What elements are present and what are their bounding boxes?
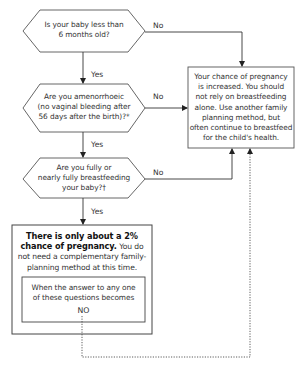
question-3-no-label: No	[153, 168, 163, 177]
no-connector-1	[145, 32, 242, 66]
question-1-no-label: No	[153, 21, 163, 30]
question-2-line-2: (no vaginal bleeding after	[34, 102, 134, 112]
question-2-line-1: Are you amenorrhoeic	[34, 92, 134, 102]
question-2-text: Are you amenorrhoeic (no vaginal bleedin…	[34, 92, 134, 123]
question-3-line-1: Are you fully or	[34, 163, 134, 173]
increased-line-4: alone. Use another family	[188, 103, 294, 113]
increased-chance-text: Your chance of pregnancy is increased. Y…	[188, 72, 294, 143]
increased-line-2: is increased. You should	[188, 82, 294, 92]
low-chance-line-4: planning method at this time.	[12, 263, 152, 273]
question-1-text: Is your baby less than 6 months old?	[40, 20, 128, 40]
low-chance-text: There is only about a 2% chance of pregn…	[12, 231, 152, 273]
question-1-yes-label: Yes	[91, 70, 103, 79]
question-2-no-label: No	[153, 92, 163, 101]
question-1-line-1: Is your baby less than	[40, 20, 128, 30]
condition-line-1: When the answer to any one	[22, 283, 145, 293]
low-chance-line-3: not need a complementary family-	[12, 252, 152, 262]
increased-line-1: Your chance of pregnancy	[188, 72, 294, 82]
condition-text: When the answer to any one of these ques…	[22, 283, 145, 317]
question-3-line-2: nearly fully breastfeeding	[34, 173, 134, 183]
question-2-yes-label: Yes	[91, 140, 103, 149]
question-1-line-2: 6 months old?	[40, 30, 128, 40]
low-chance-rest-line-2: You do	[117, 242, 144, 251]
low-chance-bold-line-2: chance of pregnancy.	[20, 241, 116, 251]
increased-line-5: planning method, but	[188, 113, 294, 123]
increased-line-7: for the child's health.	[188, 133, 294, 143]
condition-line-3: NO	[22, 306, 145, 316]
increased-line-6: often continue to breastfeed	[188, 123, 294, 133]
question-3-yes-label: Yes	[91, 207, 103, 216]
question-2-line-3: 56 days after the birth)?*	[34, 112, 134, 122]
condition-line-2: of these questions becomes	[22, 293, 145, 303]
question-3-text: Are you fully or nearly fully breastfeed…	[34, 163, 134, 194]
low-chance-bold-line-1: There is only about a 2%	[12, 231, 152, 241]
low-chance-line-2: chance of pregnancy. You do	[12, 241, 152, 252]
increased-line-3: not rely on breastfeeding	[188, 92, 294, 102]
question-3-line-3: your baby?†	[34, 183, 134, 193]
